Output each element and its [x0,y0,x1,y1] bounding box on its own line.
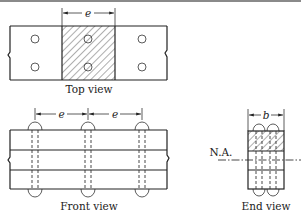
front-view-label: Front view [60,200,117,212]
front-view-dimensions: e e [35,108,142,121]
top-view-dimension-e: e [62,7,115,27]
hatched-section [62,26,115,80]
hatched-section [248,131,284,151]
end-view: b N.A. End view [210,109,301,213]
dimension-e-label: e [112,108,118,120]
top-view-label: Top view [65,83,112,95]
break-line-right [165,26,167,80]
dimension-e-label: e [58,108,64,120]
break-line-left [8,26,10,80]
front-view: e e Front view [8,108,169,213]
built-up-beam-diagram: e Top view e [0,0,301,215]
dimension-b-label: b [263,109,270,121]
bolt-heads [28,122,149,197]
neutral-axis-label: N.A. [210,146,233,158]
top-view: e Top view [8,7,167,96]
break-line-right [167,130,169,189]
dimension-e-label: e [85,7,91,19]
end-view-label: End view [242,200,291,212]
hidden-bolt-shanks [32,130,145,189]
break-line-left [8,130,10,189]
